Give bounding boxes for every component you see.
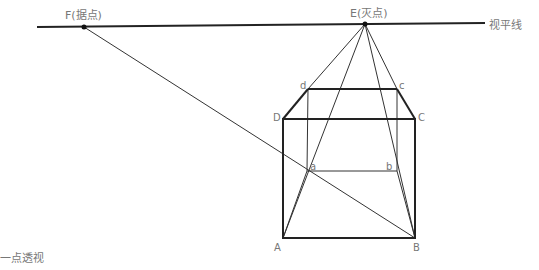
measuring-point-F — [82, 25, 87, 30]
line-A-to-a — [283, 171, 307, 238]
label-horizon: 视平线 — [489, 18, 522, 32]
edge-d-a — [307, 89, 308, 171]
line-F-to-B — [84, 27, 415, 238]
edge-C-c — [397, 89, 415, 119]
label-F: F(据点) — [65, 8, 102, 22]
label-b: b — [386, 161, 392, 172]
label-D: D — [273, 112, 281, 123]
label-C: C — [418, 112, 425, 123]
line-E-to-d — [308, 24, 365, 89]
line-E-to-B — [365, 24, 415, 238]
label-B: B — [413, 242, 420, 253]
diagram-title: 一点透视 — [0, 251, 44, 265]
label-a: a — [310, 161, 316, 172]
edge-D-d — [283, 89, 308, 119]
line-E-to-A — [283, 24, 365, 238]
horizon-line — [37, 23, 485, 27]
front-face-ABCD — [283, 119, 415, 238]
label-c: c — [399, 80, 405, 91]
line-E-to-c — [365, 24, 397, 89]
label-d: d — [300, 80, 306, 91]
one-point-perspective-diagram: F(据点) E(灭点) 视平线 d c D C a b A B 一点透视 — [0, 0, 539, 270]
label-E: E(灭点) — [350, 7, 388, 20]
label-A: A — [274, 242, 281, 253]
vanishing-point-E — [363, 22, 368, 27]
